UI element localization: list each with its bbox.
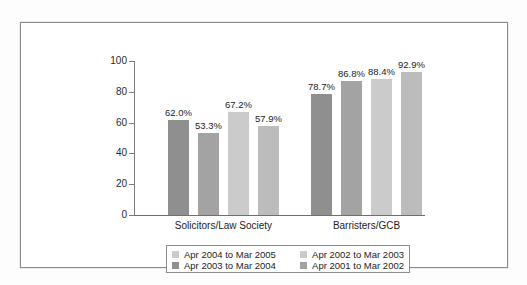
legend-swatch-icon xyxy=(172,262,179,269)
legend-label: Apr 2004 to Mar 2005 xyxy=(184,249,276,260)
y-tick-label: 0 xyxy=(87,210,127,220)
legend-row: Apr 2004 to Mar 2005 Apr 2002 to Mar 200… xyxy=(172,249,404,260)
legend-label: Apr 2002 to Mar 2003 xyxy=(312,249,404,260)
y-tick-label-wrap: 40 xyxy=(81,148,127,158)
legend-swatch-icon xyxy=(172,251,179,258)
bar xyxy=(341,81,362,215)
plot-area: 62.0%53.3%67.2%57.9%78.7%86.8%88.4%92.9% xyxy=(134,61,424,215)
bar xyxy=(198,133,219,215)
legend-entry[interactable]: Apr 2001 to Mar 2002 xyxy=(300,260,404,271)
bar xyxy=(168,120,189,215)
bar xyxy=(311,94,332,215)
category-label: Solicitors/Law Society xyxy=(144,220,304,232)
legend-label: Apr 2001 to Mar 2002 xyxy=(312,260,404,271)
y-tick-label-wrap: 80 xyxy=(81,87,127,97)
legend-label: Apr 2003 to Mar 2004 xyxy=(184,260,276,271)
bar xyxy=(258,126,279,215)
bar xyxy=(401,72,422,215)
bar-value-label: 92.9% xyxy=(396,60,427,70)
y-tick-label-wrap: 60 xyxy=(81,118,127,128)
y-tick-label-wrap: 100 xyxy=(81,56,127,66)
legend-entry[interactable]: Apr 2004 to Mar 2005 xyxy=(172,249,300,260)
bar-value-label: 86.8% xyxy=(336,69,367,79)
y-tick-label: 60 xyxy=(87,118,127,128)
bar-value-label: 78.7% xyxy=(306,82,337,92)
chart-figure-frame: 020406080100 62.0%53.3%67.2%57.9%78.7%86… xyxy=(20,22,508,268)
bar-value-label: 53.3% xyxy=(193,121,224,131)
y-tick-label-wrap: 0 xyxy=(81,210,127,220)
y-tick-label: 100 xyxy=(87,56,127,66)
bar xyxy=(371,79,392,215)
bar-value-label: 57.9% xyxy=(253,114,284,124)
bar-value-label: 67.2% xyxy=(223,100,254,110)
legend-entry[interactable]: Apr 2002 to Mar 2003 xyxy=(300,249,404,260)
legend-entry[interactable]: Apr 2003 to Mar 2004 xyxy=(172,260,300,271)
y-tick-label: 80 xyxy=(87,87,127,97)
x-axis-line xyxy=(134,215,425,216)
bar-value-label: 62.0% xyxy=(163,108,194,118)
y-tick-label: 20 xyxy=(87,179,127,189)
category-label: Barristers/GCB xyxy=(287,220,447,232)
y-tick-label: 40 xyxy=(87,148,127,158)
y-tick-label-wrap: 20 xyxy=(81,179,127,189)
legend-swatch-icon xyxy=(300,262,307,269)
y-tick-mark xyxy=(129,215,134,216)
legend-swatch-icon xyxy=(300,251,307,258)
bar xyxy=(228,112,249,215)
chart-legend: Apr 2004 to Mar 2005 Apr 2002 to Mar 200… xyxy=(166,245,410,273)
legend-row: Apr 2003 to Mar 2004 Apr 2001 to Mar 200… xyxy=(172,260,404,271)
bar-value-label: 88.4% xyxy=(366,67,397,77)
